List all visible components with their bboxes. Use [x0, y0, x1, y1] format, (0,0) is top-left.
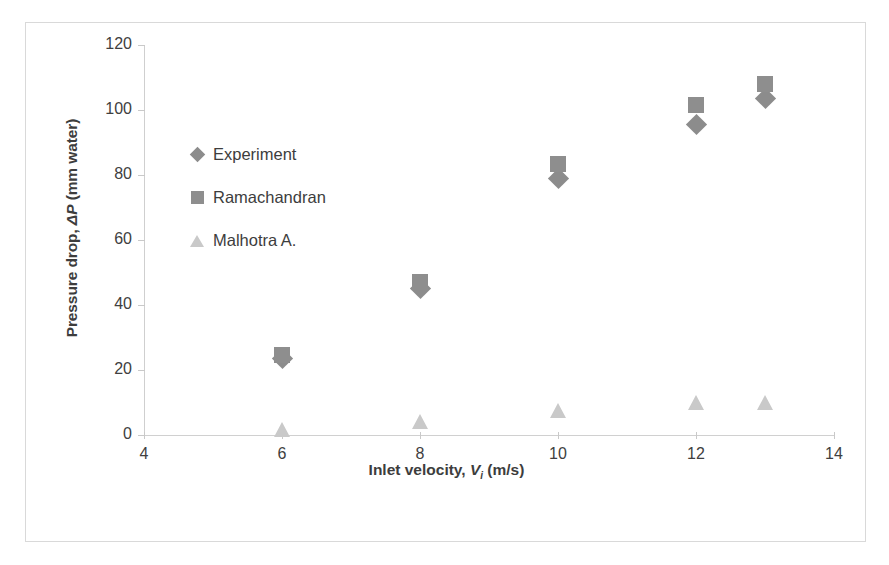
- square-marker-icon: [757, 76, 773, 92]
- square-marker-icon: [412, 274, 428, 290]
- y-tick-mark: [138, 45, 145, 46]
- square-marker-icon: [191, 191, 204, 204]
- x-tick-mark: [144, 432, 145, 439]
- y-tick-mark: [138, 240, 145, 241]
- x-tick-label: 6: [252, 445, 312, 463]
- x-tick-label: 8: [390, 445, 450, 463]
- y-tick-label: 40: [60, 296, 132, 312]
- triangle-marker-icon: [190, 235, 204, 247]
- triangle-marker-icon: [412, 414, 428, 429]
- chart-legend: ExperimentRamachandranMalhotra A.: [186, 133, 426, 262]
- y-tick-label: 0: [60, 426, 132, 442]
- diamond-marker-icon: [189, 147, 205, 163]
- x-tick-mark: [696, 432, 697, 439]
- legend-item-label: Ramachandran: [213, 188, 326, 207]
- triangle-marker-icon: [757, 395, 773, 410]
- triangle-marker-icon: [688, 395, 704, 410]
- legend-item-label: Experiment: [213, 145, 296, 164]
- x-axis-line: [144, 435, 834, 436]
- triangle-marker-icon: [550, 403, 566, 418]
- y-tick-mark: [138, 370, 145, 371]
- x-tick-label: 10: [528, 445, 588, 463]
- y-tick-label: 80: [60, 166, 132, 182]
- x-tick-label: 12: [666, 445, 726, 463]
- legend-item-label: Malhotra A.: [213, 231, 296, 250]
- y-tick-label: 20: [60, 361, 132, 377]
- y-tick-mark: [138, 305, 145, 306]
- plot-area: 020406080100120 468101214 ExperimentRama…: [26, 23, 867, 543]
- square-marker-icon: [274, 347, 290, 363]
- legend-key: [186, 235, 208, 247]
- x-tick-mark: [834, 432, 835, 439]
- legend-key: [186, 149, 208, 160]
- legend-item[interactable]: Experiment: [186, 133, 426, 176]
- y-tick-label: 120: [60, 36, 132, 52]
- legend-item[interactable]: Malhotra A.: [186, 219, 426, 262]
- y-tick-label: 60: [60, 231, 132, 247]
- x-tick-label: 4: [114, 445, 174, 463]
- y-tick-mark: [138, 175, 145, 176]
- x-tick-mark: [558, 432, 559, 439]
- x-tick-label: 14: [804, 445, 864, 463]
- legend-key: [186, 191, 208, 204]
- x-tick-mark: [420, 432, 421, 439]
- y-tick-label: 100: [60, 101, 132, 117]
- square-marker-icon: [688, 97, 704, 113]
- y-tick-mark: [138, 110, 145, 111]
- chart-frame: Pressure drop, ΔP (mm water) Inlet veloc…: [25, 22, 866, 542]
- triangle-marker-icon: [274, 422, 290, 437]
- square-marker-icon: [550, 156, 566, 172]
- legend-item[interactable]: Ramachandran: [186, 176, 426, 219]
- diamond-marker-icon: [685, 114, 706, 135]
